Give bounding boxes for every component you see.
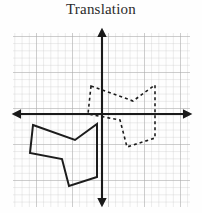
y-axis-arrow-up <box>99 30 105 36</box>
coordinate-plane <box>0 0 202 213</box>
translation-figure: Translation <box>0 0 202 213</box>
